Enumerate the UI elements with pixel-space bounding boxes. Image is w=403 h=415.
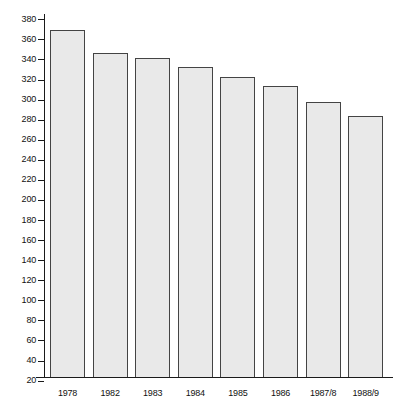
x-axis-line (36, 377, 393, 378)
bar (220, 77, 255, 378)
x-axis-category-label: 1984 (171, 388, 219, 398)
x-axis-category-label: 1982 (86, 388, 134, 398)
bar-chart: 2040608010012014016018020022024026028030… (0, 0, 403, 415)
bar (93, 53, 128, 377)
bar (263, 86, 298, 378)
bar-series (0, 0, 403, 415)
bar (135, 58, 170, 377)
x-axis-category-label: 1986 (257, 388, 305, 398)
x-axis-category-label: 1985 (214, 388, 262, 398)
bar (348, 116, 383, 377)
bar (178, 67, 213, 378)
x-axis-category-label: 1987/8 (299, 388, 347, 398)
bar (306, 102, 341, 377)
x-axis-category-label: 1978 (44, 388, 92, 398)
x-axis-category-label: 1988/9 (342, 388, 390, 398)
bar (50, 30, 85, 377)
x-axis-category-label: 1983 (129, 388, 177, 398)
